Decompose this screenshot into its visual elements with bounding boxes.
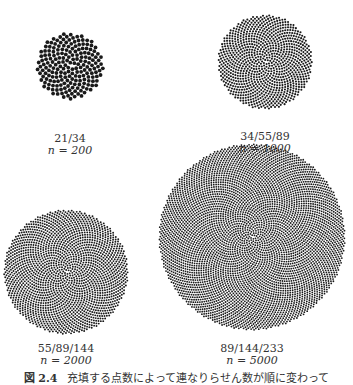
phyllotaxis-figure — [0, 0, 353, 385]
spiral-panel-200 — [36, 32, 105, 100]
caption-text: 充填する点数によって連なりらせん数が順に変わって — [67, 372, 329, 385]
point-count: n = 1000 — [215, 143, 315, 155]
point-count: n = 5000 — [202, 355, 302, 367]
figure-number: 図 2.4 — [24, 372, 58, 385]
spiral-panel-1000 — [218, 14, 313, 109]
figure-caption: 図 2.4充填する点数によって連なりらせん数が順に変わって — [0, 369, 353, 385]
point-count: n = 200 — [20, 145, 120, 157]
point-count: n = 2000 — [16, 355, 116, 367]
panel-label-1000: 34/55/89 n = 1000 — [215, 131, 315, 155]
spiral-panel-5000 — [159, 143, 346, 330]
panel-label-2000: 55/89/144 n = 2000 — [16, 343, 116, 367]
panel-label-5000: 89/144/233 n = 5000 — [202, 343, 302, 367]
spiral-panel-2000 — [3, 210, 128, 335]
panel-label-200: 21/34 n = 200 — [20, 133, 120, 157]
